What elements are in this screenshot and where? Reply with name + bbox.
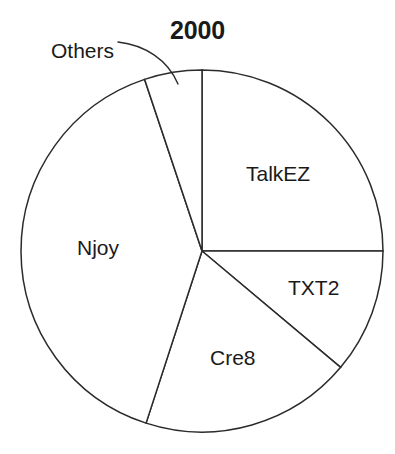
pie-slices-group bbox=[21, 70, 383, 432]
pie-slice-talkez[interactable] bbox=[202, 70, 383, 251]
slice-label-cre8-text: Cre8 bbox=[210, 346, 256, 369]
slice-label-others: Others bbox=[51, 40, 114, 61]
slice-label-talkez-text: TalkEZ bbox=[246, 162, 310, 185]
slice-label-talkez: TalkEZ bbox=[246, 163, 310, 184]
slice-label-others-text: Others bbox=[51, 39, 114, 62]
slice-label-cre8: Cre8 bbox=[210, 347, 256, 368]
slice-label-njoy-text: Njoy bbox=[77, 236, 119, 259]
slice-label-txt2: TXT2 bbox=[288, 277, 339, 298]
pie-chart-figure: 2000 TalkEZ TXT2 Cre8 Njoy Others bbox=[0, 0, 395, 454]
pie-chart-canvas bbox=[0, 0, 395, 454]
slice-label-njoy: Njoy bbox=[77, 237, 119, 258]
slice-label-txt2-text: TXT2 bbox=[288, 276, 339, 299]
